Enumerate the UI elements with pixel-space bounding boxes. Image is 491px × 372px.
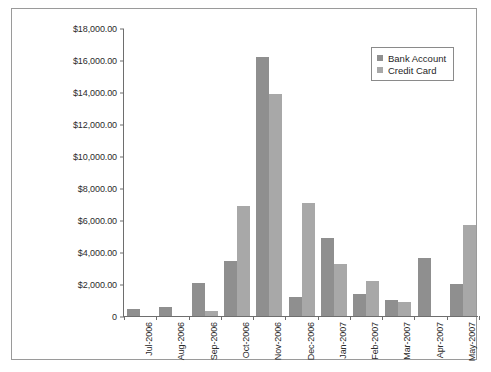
chart-legend: Bank AccountCredit Card [371, 47, 454, 81]
y-axis-tick-mark [120, 29, 124, 30]
y-axis-tick-mark [120, 157, 124, 158]
bar-bank-account [159, 307, 172, 316]
legend-label: Credit Card [388, 65, 437, 76]
x-axis-tick-label: Nov-2006 [273, 322, 283, 360]
x-axis-tick-mark [479, 316, 480, 320]
y-axis-tick-label: $2,000.00 [78, 280, 124, 290]
bar-group [450, 225, 476, 316]
x-axis-tick-mark [124, 316, 125, 320]
legend-label: Bank Account [388, 53, 446, 64]
bar-group [418, 258, 444, 316]
x-axis-tick-label: Jan-2007 [338, 322, 348, 359]
bar-bank-account [321, 238, 334, 316]
x-axis-tick-mark [156, 316, 157, 320]
y-axis-tick-mark [120, 189, 124, 190]
x-axis-tick-mark [414, 316, 415, 320]
x-axis-tick-label: Sep-2006 [209, 322, 219, 360]
y-axis-tick-label: $4,000.00 [78, 248, 124, 258]
y-axis-tick-label: $8,000.00 [78, 184, 124, 194]
bar-group [127, 309, 153, 316]
bar-group [224, 206, 250, 316]
bar-group [256, 57, 282, 316]
bar-credit-card [463, 225, 476, 316]
bar-bank-account [418, 258, 431, 316]
y-axis-tick-mark [120, 93, 124, 94]
bar-bank-account [289, 297, 302, 316]
bar-group [385, 300, 411, 316]
x-axis-tick-label: Feb-2007 [370, 322, 380, 360]
x-axis-tick-label: Oct-2006 [241, 322, 251, 358]
x-axis-tick-label: Dec-2006 [306, 322, 316, 360]
bar-group [321, 238, 347, 316]
bar-credit-card [366, 281, 379, 316]
bar-credit-card [205, 311, 218, 316]
bar-group [289, 203, 315, 316]
bar-bank-account [224, 261, 237, 316]
x-axis-tick-label: Apr-2007 [435, 322, 445, 358]
bar-bank-account [450, 284, 463, 316]
bar-bank-account [353, 294, 366, 316]
bar-group [192, 283, 218, 316]
y-axis-tick-mark [120, 61, 124, 62]
x-axis-tick-label: May-2007 [467, 322, 477, 361]
y-axis-tick-label: $18,000.00 [73, 24, 124, 34]
y-axis-tick-label: $14,000.00 [73, 88, 124, 98]
x-axis-tick-mark [221, 316, 222, 320]
y-axis-tick-mark [120, 285, 124, 286]
bar-credit-card [398, 302, 411, 316]
bar-credit-card [302, 203, 315, 316]
legend-item: Credit Card [377, 64, 446, 76]
x-axis-tick-mark [318, 316, 319, 320]
legend-item: Bank Account [377, 52, 446, 64]
x-axis-tick-mark [285, 316, 286, 320]
y-axis-tick-label: $10,000.00 [73, 152, 124, 162]
bar-bank-account [256, 57, 269, 316]
bar-bank-account [127, 309, 140, 316]
y-axis-tick-label: $16,000.00 [73, 56, 124, 66]
y-axis-tick-label: $12,000.00 [73, 120, 124, 130]
bar-credit-card [334, 264, 347, 316]
y-axis-tick-label: $6,000.00 [78, 216, 124, 226]
x-axis-tick-label: Aug-2006 [176, 322, 186, 360]
y-axis-tick-mark [120, 221, 124, 222]
bar-group [159, 307, 185, 316]
bar-bank-account [192, 283, 205, 316]
y-axis-tick-mark [120, 125, 124, 126]
x-axis-tick-mark [447, 316, 448, 320]
bar-bank-account [385, 300, 398, 316]
x-axis-tick-mark [253, 316, 254, 320]
x-axis-tick-mark [382, 316, 383, 320]
bar-group [353, 281, 379, 316]
chart-frame: $18,000.00$16,000.00$14,000.00$12,000.00… [11, 8, 477, 360]
x-axis-tick-label: Mar-2007 [402, 322, 412, 360]
x-axis-tick-label: Jul-2006 [144, 322, 154, 356]
x-axis-tick-mark [350, 316, 351, 320]
bar-credit-card [237, 206, 250, 316]
y-axis-tick-mark [120, 253, 124, 254]
bar-credit-card [269, 94, 282, 316]
legend-swatch-icon [377, 67, 383, 73]
x-axis-tick-mark [189, 316, 190, 320]
legend-swatch-icon [377, 55, 383, 61]
